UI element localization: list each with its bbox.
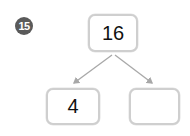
left-child-box: 4 — [46, 88, 100, 125]
root-number-box: 16 — [88, 14, 138, 52]
arrow-to-right — [115, 55, 152, 83]
right-child-answer-box[interactable] — [129, 88, 180, 125]
arrow-to-left — [74, 55, 112, 83]
